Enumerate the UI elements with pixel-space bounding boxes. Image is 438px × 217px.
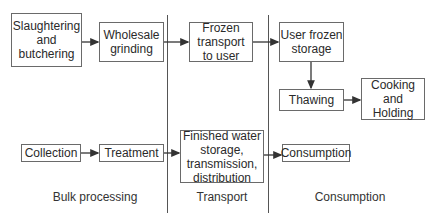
flow-arrows xyxy=(0,0,438,217)
